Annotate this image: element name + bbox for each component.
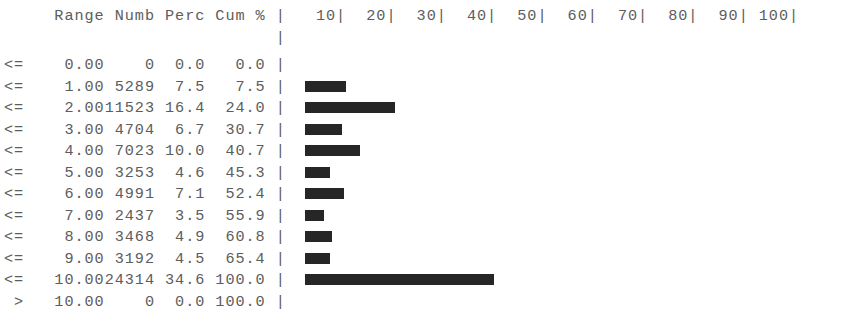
histogram-bar [305,124,342,135]
histogram-bar [305,145,360,156]
histogram-bar [305,210,324,221]
histogram-bar [305,274,494,285]
histogram-bar [305,253,330,264]
histogram-bar [305,102,395,113]
histogram-bar [305,81,346,92]
histogram-bar [305,188,344,199]
histogram-bar [305,167,330,178]
histogram-bar [305,231,332,242]
